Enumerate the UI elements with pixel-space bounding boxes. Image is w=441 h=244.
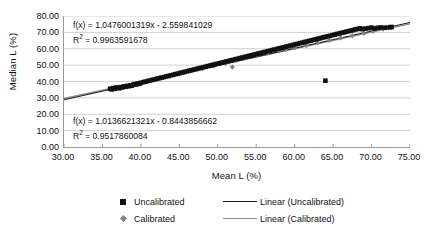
r2-calibrated-text: R2 = 0.9517860084 [73,127,217,142]
y-axis-tick-labels: 0.0010.0020.0030.0040.0050.0060.0070.008… [0,16,59,148]
y-tick-label: 60.00 [3,44,59,54]
equation-calibrated-annotation: f(x) = 1.0136621321x - 0.8443856662 R2 =… [73,116,217,142]
legend-row-uncalibrated: Uncalibrated Linear (Uncalibrated) [112,193,412,210]
y-tick-label: 80.00 [3,11,59,21]
x-tick-label: 70.00 [349,152,393,162]
y-tick-label: 50.00 [3,60,59,70]
r2-calibrated-value: = 0.9517860084 [83,131,148,141]
chart-legend: Uncalibrated Linear (Uncalibrated) Calib… [112,193,412,227]
square-marker-icon [112,199,134,205]
diamond-marker-icon [112,216,134,221]
y-tick-label: 40.00 [3,77,59,87]
y-tick-label: 70.00 [3,27,59,37]
data-point-uncalibrated [323,78,328,83]
trendline-swatch-uncalibrated-icon [220,201,260,202]
x-axis-title: Mean L (%) [63,170,410,181]
y-tick-label: 0.00 [3,142,59,152]
r2-uncalibrated-value: = 0.9963591678 [83,35,148,45]
data-point-calibrated [350,33,355,38]
equation-uncalibrated-annotation: f(x) = 1.0476001319x - 2.559841029 R2 = … [73,20,212,46]
trendline-swatch-calibrated-icon [220,218,260,219]
x-tick-label: 55.00 [233,152,277,162]
x-tick-label: 65.00 [310,152,354,162]
y-tick-label: 10.00 [3,126,59,136]
data-point-uncalibrated [383,25,388,30]
x-tick-label: 40.00 [118,152,162,162]
r2-uncalibrated-text: R2 = 0.9963591678 [73,31,212,46]
equation-uncalibrated-text: f(x) = 1.0476001319x - 2.559841029 [73,20,212,31]
legend-label-linear-uncalibrated: Linear (Uncalibrated) [260,197,344,207]
legend-label-calibrated: Calibrated [134,214,220,224]
y-tick-label: 20.00 [3,109,59,119]
data-point-uncalibrated [389,25,394,30]
scatter-chart: Median L (%) 0.0010.0020.0030.0040.0050.… [0,0,441,244]
data-point-uncalibrated [378,25,383,30]
y-tick-label: 30.00 [3,93,59,103]
legend-label-uncalibrated: Uncalibrated [134,197,220,207]
x-tick-label: 50.00 [195,152,239,162]
equation-calibrated-text: f(x) = 1.0136621321x - 0.8443856662 [73,116,217,127]
x-tick-label: 75.00 [387,152,431,162]
x-tick-label: 35.00 [79,152,123,162]
x-tick-label: 60.00 [272,152,316,162]
legend-label-linear-calibrated: Linear (Calibrated) [260,214,335,224]
x-tick-label: 45.00 [156,152,200,162]
legend-row-calibrated: Calibrated Linear (Calibrated) [112,210,412,227]
x-tick-label: 30.00 [41,152,85,162]
x-axis-tick-labels: 30.0035.0040.0045.0050.0055.0060.0065.00… [63,152,410,166]
